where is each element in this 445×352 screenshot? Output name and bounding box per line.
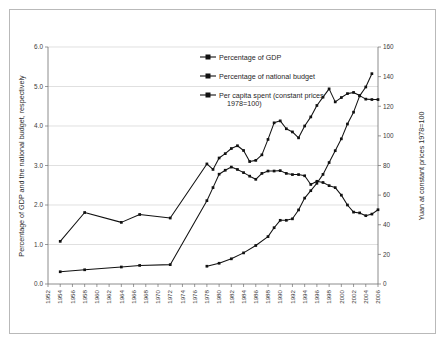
- x-tick-label: 1982: [228, 289, 235, 303]
- data-point-marker: [303, 197, 306, 200]
- x-tick-label: 1970: [154, 289, 161, 303]
- y2-axis-tick-labels: 020406080100120140160: [378, 43, 394, 287]
- data-point-marker: [285, 219, 288, 222]
- y2-tick-label: 80: [383, 162, 391, 169]
- data-point-marker: [273, 226, 276, 229]
- legend-label-budget: Percentage of national budget: [219, 72, 315, 81]
- data-point-marker: [297, 137, 300, 140]
- data-point-marker: [346, 123, 349, 126]
- y2-tick-label: 40: [383, 221, 391, 228]
- data-point-marker: [267, 138, 270, 141]
- data-point-marker: [285, 172, 288, 175]
- data-point-marker: [334, 101, 337, 104]
- data-point-marker: [83, 211, 86, 214]
- data-point-marker: [352, 111, 355, 114]
- data-point-marker: [279, 169, 282, 172]
- data-point-marker: [83, 268, 86, 271]
- x-tick-label: 1980: [215, 289, 222, 303]
- x-tick-label: 1998: [325, 289, 332, 303]
- data-point-marker: [138, 213, 141, 216]
- x-tick-label: 1984: [240, 289, 247, 303]
- data-point-marker: [371, 98, 374, 101]
- y-tick-label: 1.0: [34, 241, 43, 248]
- data-point-marker: [328, 88, 331, 91]
- data-point-marker: [218, 173, 221, 176]
- y-tick-label: 2.0: [34, 201, 43, 208]
- data-point-marker: [169, 217, 172, 220]
- x-tick-label: 1996: [313, 289, 320, 303]
- x-tick-label: 2004: [362, 289, 369, 303]
- x-tick-label: 1952: [44, 289, 51, 303]
- data-point-marker: [358, 212, 361, 215]
- chart-figure: 0.01.02.03.04.05.06.0 020406080100120140…: [0, 0, 445, 352]
- x-tick-label: 1964: [118, 289, 125, 303]
- data-point-marker: [261, 153, 264, 156]
- data-point-marker: [254, 178, 257, 181]
- data-point-marker: [340, 194, 343, 197]
- data-point-marker: [169, 263, 172, 266]
- x-axis-tick-marks: [48, 284, 378, 287]
- data-point-marker: [230, 166, 233, 169]
- x-tick-label: 1994: [301, 289, 308, 303]
- data-point-marker: [267, 170, 270, 173]
- data-point-marker: [340, 137, 343, 140]
- data-point-marker: [224, 152, 227, 155]
- data-point-marker: [352, 211, 355, 214]
- data-point-marker: [297, 209, 300, 212]
- data-point-marker: [371, 213, 374, 216]
- data-point-marker: [309, 189, 312, 192]
- y2-tick-label: 0: [383, 280, 387, 287]
- data-point-marker: [273, 121, 276, 124]
- x-tick-label: 1972: [166, 289, 173, 303]
- y2-tick-label: 60: [383, 191, 391, 198]
- data-point-marker: [279, 120, 282, 123]
- x-tick-label: 1954: [56, 289, 63, 303]
- data-point-marker: [364, 86, 367, 89]
- data-point-marker: [120, 221, 123, 224]
- data-point-marker: [254, 244, 257, 247]
- data-point-marker: [206, 265, 209, 268]
- data-point-marker: [59, 240, 62, 243]
- data-point-marker: [364, 214, 367, 217]
- x-tick-label: 1986: [252, 289, 259, 303]
- data-point-marker: [358, 95, 361, 98]
- data-point-marker: [206, 163, 209, 166]
- data-point-marker: [352, 91, 355, 94]
- data-point-marker: [236, 144, 239, 147]
- y-tick-label: 0.0: [34, 280, 43, 287]
- y-axis-tick-labels: 0.01.02.03.04.05.06.0: [34, 43, 48, 287]
- data-point-marker: [212, 168, 215, 171]
- data-point-marker: [316, 104, 319, 107]
- x-tick-label: 1958: [81, 289, 88, 303]
- y2-tick-label: 160: [383, 43, 394, 50]
- data-point-marker: [248, 175, 251, 178]
- x-tick-label: 1968: [142, 289, 149, 303]
- x-tick-label: 1966: [130, 289, 137, 303]
- y-tick-label: 5.0: [34, 83, 43, 90]
- data-point-marker: [291, 131, 294, 134]
- data-point-marker: [334, 149, 337, 152]
- data-point-marker: [377, 98, 380, 101]
- data-point-marker: [328, 184, 331, 187]
- x-tick-label: 1962: [105, 289, 112, 303]
- data-point-marker: [230, 257, 233, 260]
- legend-marker-icon: [206, 74, 211, 79]
- data-point-marker: [267, 235, 270, 238]
- y-tick-label: 6.0: [34, 43, 43, 50]
- data-point-marker: [303, 174, 306, 177]
- data-point-marker: [218, 157, 221, 160]
- data-point-marker: [236, 168, 239, 171]
- data-point-marker: [59, 270, 62, 273]
- data-point-marker: [371, 72, 374, 75]
- data-point-marker: [297, 173, 300, 176]
- y-tick-label: 3.0: [34, 162, 43, 169]
- data-point-marker: [224, 169, 227, 172]
- data-point-marker: [322, 173, 325, 176]
- data-point-marker: [303, 125, 306, 128]
- x-tick-label: 1978: [203, 289, 210, 303]
- data-point-marker: [242, 171, 245, 174]
- y2-tick-label: 120: [383, 103, 394, 110]
- line-chart: 0.01.02.03.04.05.06.0 020406080100120140…: [0, 0, 445, 352]
- data-point-marker: [261, 172, 264, 175]
- legend-label-gdp: Percentage of GDP: [219, 53, 282, 62]
